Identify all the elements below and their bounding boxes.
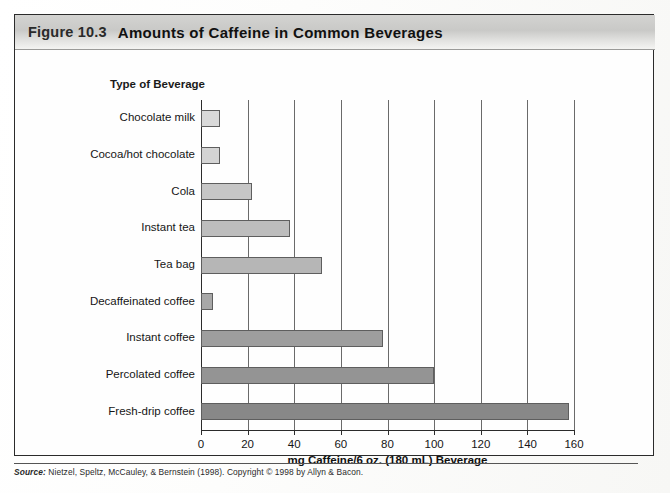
bar-instant-coffee bbox=[201, 330, 383, 347]
gridline-160 bbox=[574, 100, 575, 430]
category-label-instant-tea: Instant tea bbox=[61, 221, 195, 233]
category-label-chocolate-milk: Chocolate milk bbox=[61, 111, 195, 123]
source-text: Nietzel, Speltz, McCauley, & Bernstein (… bbox=[48, 467, 363, 477]
x-tick-20 bbox=[248, 430, 249, 435]
category-label-percolated-coffee: Percolated coffee bbox=[61, 368, 195, 380]
x-tick-label-60: 60 bbox=[334, 438, 347, 450]
bar-cocoa-hot-chocolate bbox=[201, 147, 220, 164]
x-tick-140 bbox=[527, 430, 528, 435]
source-label: Source: bbox=[14, 467, 46, 477]
x-tick-100 bbox=[434, 430, 435, 435]
gridline-100 bbox=[434, 100, 435, 430]
x-tick-label-100: 100 bbox=[425, 438, 444, 450]
category-label-fresh-drip-coffee: Fresh-drip coffee bbox=[61, 405, 195, 417]
bar-decaffeinated-coffee bbox=[201, 293, 213, 310]
figure-container: Figure 10.3 Amounts of Caffeine in Commo… bbox=[14, 14, 654, 456]
figure-title-banner: Figure 10.3 Amounts of Caffeine in Commo… bbox=[15, 15, 655, 50]
y-axis-title: Type of Beverage bbox=[89, 78, 205, 90]
gridline-120 bbox=[481, 100, 482, 430]
category-label-cola: Cola bbox=[61, 185, 195, 197]
x-tick-label-120: 120 bbox=[471, 438, 490, 450]
x-tick-label-20: 20 bbox=[241, 438, 254, 450]
source-citation: Source: Nietzel, Speltz, McCauley, & Ber… bbox=[14, 467, 654, 477]
bar-tea-bag bbox=[201, 257, 322, 274]
x-tick-label-160: 160 bbox=[564, 438, 583, 450]
bar-cola bbox=[201, 183, 252, 200]
chart-plot-area: Type of Beverage Chocolate milkCocoa/hot… bbox=[15, 50, 655, 457]
figure-number: Figure 10.3 bbox=[28, 24, 107, 40]
bar-fresh-drip-coffee bbox=[201, 403, 569, 420]
x-tick-120 bbox=[481, 430, 482, 435]
source-divider bbox=[14, 463, 638, 464]
x-tick-60 bbox=[341, 430, 342, 435]
category-label-tea-bag: Tea bag bbox=[61, 258, 195, 270]
x-tick-label-140: 140 bbox=[518, 438, 537, 450]
x-tick-40 bbox=[294, 430, 295, 435]
x-tick-160 bbox=[574, 430, 575, 435]
bar-instant-tea bbox=[201, 220, 290, 237]
x-tick-80 bbox=[388, 430, 389, 435]
gridline-140 bbox=[527, 100, 528, 430]
x-tick-0 bbox=[201, 430, 202, 435]
x-tick-label-80: 80 bbox=[381, 438, 394, 450]
x-tick-label-0: 0 bbox=[198, 438, 204, 450]
category-label-cocoa-hot-chocolate: Cocoa/hot chocolate bbox=[61, 148, 195, 160]
bar-percolated-coffee bbox=[201, 367, 434, 384]
figure-title: Amounts of Caffeine in Common Beverages bbox=[118, 24, 443, 41]
x-tick-label-40: 40 bbox=[288, 438, 301, 450]
bar-chocolate-milk bbox=[201, 110, 220, 127]
category-label-decaffeinated-coffee: Decaffeinated coffee bbox=[61, 295, 195, 307]
category-label-instant-coffee: Instant coffee bbox=[61, 331, 195, 343]
x-axis-title: mg Caffeine/6 oz. (180 mL) Beverage bbox=[201, 454, 574, 466]
